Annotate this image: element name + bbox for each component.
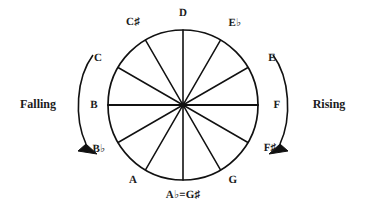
note-label-f-sharp: F♯ [264,142,277,154]
falling-label: Falling [20,97,56,112]
pitch-class-circle-figure: D E♭ E F F♯ G A♭=G♯ A B♭ B C C♯ Falling … [0,0,366,212]
note-label-b: B [90,99,98,111]
circle-center-hub [180,102,185,107]
note-label-c: C [94,52,102,64]
note-label-g: G [229,174,238,186]
note-label-a-flat-g-sharp: A♭=G♯ [166,188,200,201]
note-label-b-flat: B♭ [93,142,106,155]
note-label-a: A [129,174,137,186]
rising-label: Rising [313,97,346,112]
note-label-c-sharp: C♯ [126,16,140,28]
note-label-e: E [268,52,276,64]
note-label-f: F [274,99,281,111]
note-label-d: D [179,7,187,19]
note-label-e-flat: E♭ [229,16,242,29]
